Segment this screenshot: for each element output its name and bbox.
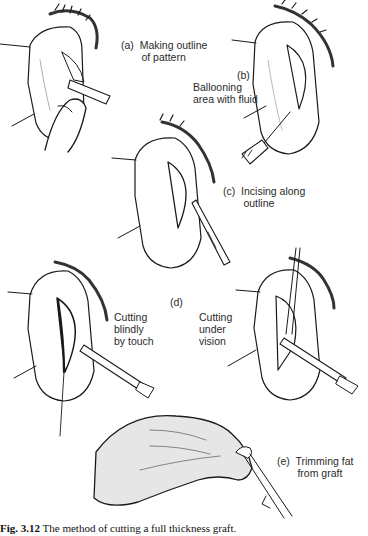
caption-text: The method of cutting a full thickness g… bbox=[40, 522, 236, 534]
panel-e-drawing bbox=[94, 416, 292, 518]
figure-number: Fig. 3.12 bbox=[0, 522, 40, 534]
figure-caption: Fig. 3.12 The method of cutting a full t… bbox=[0, 522, 236, 534]
panel-c-drawing bbox=[112, 114, 230, 268]
panel-b-letter: (b) bbox=[237, 69, 250, 81]
panel-d-left-label: Cutting blindly by touch bbox=[114, 311, 154, 347]
panel-b-label: Ballooning area with fluid bbox=[193, 81, 258, 105]
panel-a-drawing bbox=[0, 4, 110, 152]
panel-c-label: (c) Incising along outline bbox=[223, 185, 305, 209]
panel-d-letter: (d) bbox=[170, 296, 183, 308]
figure-3-12: (a) Making outline of pattern (b) Balloo… bbox=[0, 0, 368, 536]
panel-d-right-label: Cutting under vision bbox=[199, 311, 232, 347]
panel-a-label: (a) Making outline of pattern bbox=[121, 39, 207, 63]
panel-e-label: (e) Trimming fat from graft bbox=[277, 455, 353, 479]
panel-d-left-drawing bbox=[8, 262, 154, 436]
panel-d-right-drawing bbox=[228, 248, 358, 400]
